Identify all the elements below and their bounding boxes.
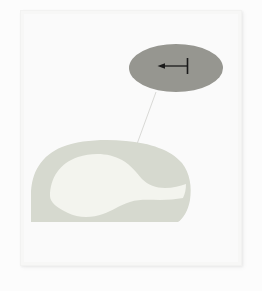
figure-root: Histological cross-section with magnifie…	[0, 0, 262, 291]
figure-panel	[20, 10, 242, 266]
figure-plate	[24, 14, 238, 262]
